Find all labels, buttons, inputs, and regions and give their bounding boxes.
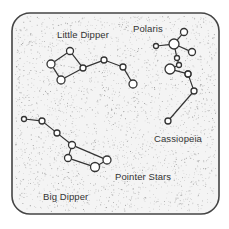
label-pointer-stars: Pointer Stars	[115, 171, 171, 182]
polaris-group-star-icon	[169, 39, 179, 49]
little-dipper-star-icon	[47, 60, 55, 68]
big-dipper-star-icon	[69, 142, 76, 149]
little-dipper-star-icon	[67, 48, 74, 55]
big-dipper-star-icon	[103, 156, 111, 164]
big-dipper-star-icon	[39, 118, 45, 124]
big-dipper-star-icon	[65, 155, 72, 162]
label-little-dipper: Little Dipper	[57, 29, 109, 40]
little-dipper-star-icon	[57, 76, 65, 84]
label-cassiopeia: Cassiopeia	[154, 133, 202, 144]
polaris-group-star-icon	[165, 64, 175, 74]
polaris-group-star-icon	[154, 44, 159, 49]
cassiopeia-star-icon	[191, 88, 197, 94]
little-dipper-star-icon	[101, 57, 107, 63]
big-dipper-star-icon	[54, 130, 60, 136]
sky-panel	[12, 13, 219, 214]
big-dipper-star-icon	[22, 117, 27, 122]
little-dipper-star-icon	[129, 80, 137, 88]
label-big-dipper: Big Dipper	[43, 191, 88, 202]
little-dipper-star-icon	[80, 65, 86, 71]
cassiopeia-star-icon	[165, 118, 171, 124]
polaris-group-star-icon	[175, 56, 180, 61]
cassiopeia-star-icon	[185, 71, 191, 77]
polaris-group-star-icon	[181, 29, 188, 36]
label-polaris: Polaris	[133, 23, 163, 34]
polaris-group-star-icon	[189, 49, 196, 56]
polaris-group-star-icon	[177, 63, 182, 68]
little-dipper-star-icon	[120, 64, 126, 70]
big-dipper-star-icon	[91, 163, 100, 172]
star-chart-canvas	[0, 0, 229, 229]
